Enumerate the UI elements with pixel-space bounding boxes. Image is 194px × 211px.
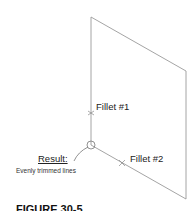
fillet2-marker-icon xyxy=(119,160,125,166)
result-label: Result: xyxy=(38,153,68,164)
fillet1-label: Fillet #1 xyxy=(96,101,129,112)
figure-caption: FIGURE 30-5 xyxy=(16,203,83,211)
result-leader-arc xyxy=(74,147,88,161)
result-description: Evenly trimmed lines xyxy=(16,167,76,174)
fillet2-label: Fillet #2 xyxy=(130,153,163,164)
